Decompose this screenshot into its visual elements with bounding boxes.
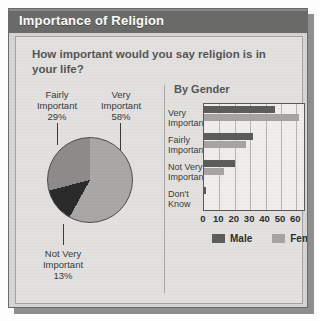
bar-category-label-2-line2: Important [168, 172, 206, 182]
religion-importance-card: Importance of Religion How important wou… [8, 8, 308, 308]
pie-chart [47, 137, 133, 223]
pie-label-not-very-important: Not Very Important 13% [28, 248, 98, 281]
bar-category-label-1: FairlyImportant [168, 135, 206, 155]
bar-category-label-0-line2: Important [168, 118, 206, 128]
bar-female-not-very-important [204, 168, 224, 175]
bar-chart-legend: Male Female [212, 233, 308, 244]
bar-male-don-t-know [204, 187, 206, 194]
bar-chart-plot [203, 103, 305, 211]
survey-question: How important would you say religion is … [32, 47, 282, 77]
title-bar-highlight [9, 9, 308, 11]
legend-label-male: Male [230, 233, 252, 244]
bar-category-label-3-line2: Know [168, 199, 191, 209]
bar-chart-x-axis: 0102030405060 [199, 213, 308, 225]
bar-category-label-2: Not VeryImportant [168, 162, 206, 182]
pie-chart-area: Fairly Important 29% Very Important 58% … [16, 85, 164, 300]
legend-label-female: Female [290, 233, 308, 244]
x-tick-60: 60 [288, 213, 302, 224]
legend-swatch-male [212, 234, 225, 243]
pie-slices [47, 137, 133, 223]
page-title: Importance of Religion [19, 13, 164, 28]
bar-male-fairly-important [204, 133, 253, 140]
pie-label-very-line1: Very [92, 89, 150, 100]
x-tick-20: 20 [227, 213, 241, 224]
pie-leader-line-notvery [63, 224, 64, 245]
x-tick-40: 40 [258, 213, 272, 224]
bar-male-not-very-important [204, 160, 235, 167]
bar-category-label-1-line2: Important [168, 145, 206, 155]
x-tick-50: 50 [273, 213, 287, 224]
bar-female-very-important [204, 114, 299, 121]
card-title-bar: Importance of Religion [9, 9, 308, 33]
pie-label-notvery-line2: Important [28, 259, 98, 270]
infographic-root: Importance of Religion How important wou… [0, 0, 320, 321]
x-tick-0: 0 [196, 213, 210, 224]
bar-category-label-0-line1: Very [168, 108, 206, 118]
pie-label-fairly-important: Fairly Important 29% [26, 89, 88, 122]
bar-female-fairly-important [204, 141, 246, 148]
x-tick-30: 30 [242, 213, 256, 224]
legend-swatch-female [272, 234, 285, 243]
pie-label-fairly-line2: Important [26, 100, 88, 111]
bar-chart-heading: By Gender [174, 83, 230, 95]
bar-category-label-3-line1: Don't [168, 189, 191, 199]
bar-category-label-2-line1: Not Very [168, 162, 206, 172]
content-panel: How important would you say religion is … [15, 36, 303, 304]
pie-label-very-line2: Important [92, 100, 150, 111]
bar-category-label-3: Don'tKnow [168, 189, 191, 209]
pie-label-fairly-percent: 29% [26, 111, 88, 122]
panel-divider [164, 85, 165, 293]
pie-label-notvery-percent: 13% [28, 270, 98, 281]
bar-category-label-0: VeryImportant [168, 108, 206, 128]
bar-male-very-important [204, 106, 275, 113]
pie-label-very-important: Very Important 58% [92, 89, 150, 122]
x-tick-10: 10 [211, 213, 225, 224]
pie-label-notvery-line1: Not Very [28, 248, 98, 259]
bar-category-label-1-line1: Fairly [168, 135, 206, 145]
pie-label-very-percent: 58% [92, 111, 150, 122]
pie-label-fairly-line1: Fairly [26, 89, 88, 100]
